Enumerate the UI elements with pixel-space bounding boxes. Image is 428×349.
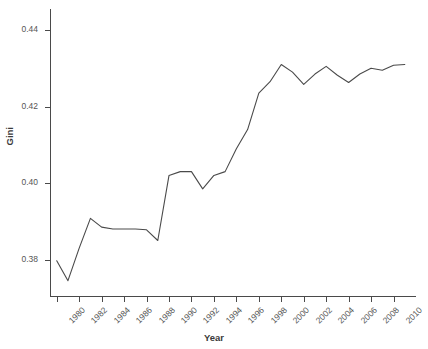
- x-tick-mark: [349, 297, 350, 302]
- x-tick-mark: [169, 297, 170, 302]
- x-tick-mark: [394, 297, 395, 302]
- x-tick-mark: [147, 297, 148, 302]
- x-tick-mark: [259, 297, 260, 302]
- gini-line-chart: Gini 0.380.400.420.44 Year 1980198219841…: [0, 0, 428, 349]
- x-tick-mark: [191, 297, 192, 302]
- x-tick-mark: [57, 297, 58, 302]
- y-tick-mark: [45, 107, 50, 108]
- y-tick-mark: [45, 30, 50, 31]
- x-tick-mark: [304, 297, 305, 302]
- x-tick-mark: [102, 297, 103, 302]
- y-tick-mark: [45, 260, 50, 261]
- x-tick-mark: [124, 297, 125, 302]
- x-tick-mark: [371, 297, 372, 302]
- x-tick-mark: [326, 297, 327, 302]
- y-tick-mark: [45, 183, 50, 184]
- x-tick-mark: [236, 297, 237, 302]
- x-tick-mark: [214, 297, 215, 302]
- x-tick-mark: [281, 297, 282, 302]
- x-tick-mark: [79, 297, 80, 302]
- gini-series-line: [57, 64, 405, 280]
